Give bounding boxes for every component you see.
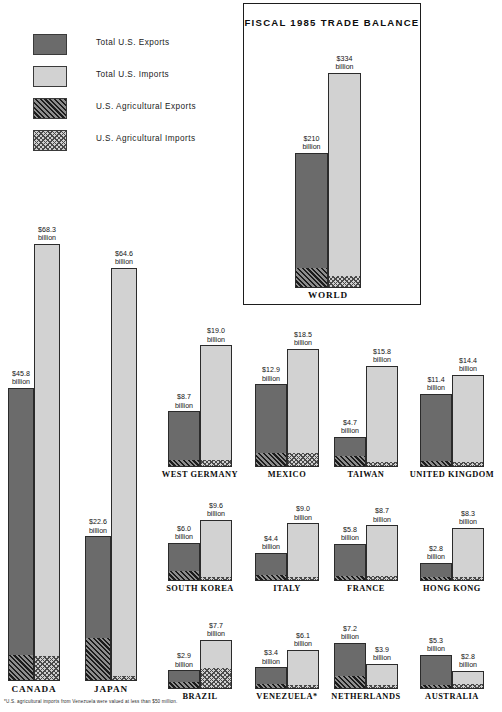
agricultural-imports-segment	[367, 462, 397, 466]
agricultural-imports-segment	[112, 676, 136, 680]
agricultural-imports-segment	[35, 656, 59, 680]
bar-imports	[328, 73, 361, 288]
legend-item-label: Total U.S. Exports	[96, 38, 170, 47]
agricultural-exports-segment	[421, 577, 451, 580]
agricultural-imports-segment	[288, 577, 318, 580]
footnote: *U.S. agricultural imports from Venezuel…	[4, 699, 178, 704]
imports-value-label: $14.4billion	[438, 357, 498, 374]
agricultural-imports-segment	[367, 685, 397, 688]
agricultural-imports-segment	[288, 685, 318, 688]
country-label: HONG KONG	[392, 584, 502, 593]
exports-value-label: $3.4billion	[241, 649, 301, 666]
total-imports-segment	[112, 269, 136, 680]
bar-imports	[287, 523, 319, 581]
bar-imports	[34, 244, 60, 681]
agricultural-imports-segment	[453, 684, 483, 688]
agricultural-exports-segment	[9, 655, 33, 680]
bar-exports	[168, 543, 200, 581]
country-label: WORLD	[268, 290, 388, 300]
exports-value-label: $4.7billion	[320, 419, 380, 436]
total-imports-segment	[35, 245, 59, 680]
imports-value-label: $18.5billion	[273, 331, 333, 348]
total-exports-segment	[9, 389, 33, 680]
total-exports-segment	[335, 545, 365, 580]
total-imports-segment	[329, 74, 360, 287]
bar-imports	[452, 671, 484, 689]
agricultural-imports-segment	[201, 668, 231, 688]
agricultural-exports-segment	[296, 268, 327, 287]
agricultural-exports-segment	[421, 461, 451, 466]
country-label: AUSTRALIA	[392, 692, 502, 701]
agricultural-exports-segment	[421, 685, 451, 688]
exports-value-label: $210billion	[282, 135, 342, 152]
imports-value-label: $8.3billion	[438, 510, 498, 527]
imports-value-label: $68.3billion	[17, 226, 77, 243]
agricultural-exports-segment	[335, 456, 365, 466]
agricultural-imports-segment	[288, 453, 318, 466]
legend-item-label: Total U.S. Imports	[96, 70, 169, 79]
agricultural-imports-segment	[453, 577, 483, 580]
bar-exports	[334, 437, 366, 467]
exports-value-label: $8.7billion	[154, 393, 214, 410]
agricultural-imports-segment	[201, 460, 231, 466]
bar-exports	[420, 394, 452, 467]
bar-exports	[334, 544, 366, 581]
bar-imports	[366, 664, 398, 689]
exports-value-label: $12.9billion	[241, 366, 301, 383]
agricultural-imports-segment	[367, 576, 397, 580]
exports-value-label: $11.4billion	[406, 376, 466, 393]
bar-exports	[420, 563, 452, 581]
bar-imports	[366, 366, 398, 467]
agricultural-exports-segment	[256, 453, 286, 466]
bar-imports	[111, 268, 137, 681]
ag-exports-swatch	[33, 98, 67, 119]
agricultural-exports-segment	[86, 638, 110, 680]
exports-value-label: $5.3billion	[406, 637, 466, 654]
imports-value-label: $9.0billion	[273, 505, 333, 522]
bar-exports	[8, 388, 34, 681]
agricultural-imports-segment	[453, 462, 483, 466]
exports-value-label: $5.8billion	[320, 526, 380, 543]
ag-imports-swatch	[33, 130, 67, 151]
bar-exports	[168, 670, 200, 689]
total-exports-segment	[169, 412, 199, 466]
total-imports-segment	[367, 367, 397, 466]
agricultural-imports-segment	[329, 276, 360, 287]
bar-exports	[168, 411, 200, 467]
exports-value-label: $4.4billion	[241, 535, 301, 552]
imports-value-label: $7.7billion	[186, 622, 246, 639]
agricultural-exports-segment	[335, 576, 365, 580]
bar-exports	[85, 536, 111, 681]
country-label: UNITED KINGDOM	[392, 470, 502, 479]
panel-title: FISCAL 1985 TRADE BALANCE	[244, 17, 420, 28]
trade-balance-chart: Total U.S. ExportsTotal U.S. ImportsU.S.…	[0, 0, 502, 712]
imports-value-label: $2.8billion	[438, 653, 498, 670]
imports-swatch	[33, 66, 67, 87]
exports-value-label: $45.8billion	[0, 370, 51, 387]
bar-exports	[295, 153, 328, 288]
agricultural-imports-segment	[201, 577, 231, 580]
total-exports-segment	[421, 395, 451, 466]
agricultural-exports-segment	[169, 682, 199, 688]
exports-value-label: $2.8billion	[406, 545, 466, 562]
agricultural-exports-segment	[335, 676, 365, 688]
total-imports-segment	[288, 524, 318, 580]
exports-value-label: $7.2billion	[320, 625, 380, 642]
bar-exports	[255, 667, 287, 689]
agricultural-exports-segment	[256, 575, 286, 580]
exports-value-label: $6.0billion	[154, 525, 214, 542]
imports-value-label: $64.6billion	[94, 250, 154, 267]
legend-item-label: U.S. Agricultural Exports	[96, 102, 196, 111]
bar-exports	[255, 553, 287, 581]
imports-value-label: $15.8billion	[352, 348, 412, 365]
agricultural-exports-segment	[169, 460, 199, 466]
imports-value-label: $19.0billion	[186, 327, 246, 344]
imports-value-label: $334billion	[315, 55, 375, 72]
imports-value-label: $3.9billion	[352, 646, 412, 663]
bar-exports	[255, 384, 287, 467]
legend-item-label: U.S. Agricultural Imports	[96, 134, 196, 143]
imports-value-label: $8.7billion	[352, 507, 412, 524]
total-exports-segment	[296, 154, 327, 287]
imports-value-label: $9.6billion	[186, 502, 246, 519]
agricultural-exports-segment	[169, 571, 199, 580]
